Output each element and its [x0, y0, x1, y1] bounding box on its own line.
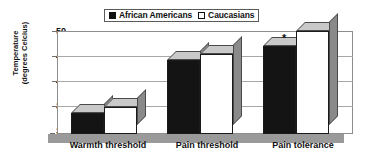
- bar-caucasians-warmth-threshold: [104, 107, 137, 134]
- x-axis-label-pain-threshold: Pain threshold: [157, 140, 257, 150]
- bar-caucasians-pain-threshold: [200, 54, 233, 134]
- bar-side-face: [329, 13, 338, 125]
- y-axis-title-line1: Temperature: [11, 9, 20, 97]
- legend-swatch-filled-square-icon: [109, 12, 116, 19]
- legend-entry-caucasians: Caucasians: [198, 11, 254, 20]
- bar-african-americans-pain-tolerance: [263, 46, 296, 134]
- bar-front-face: [200, 54, 233, 134]
- bar-front-face: [104, 107, 137, 134]
- bar-front-face: [167, 60, 200, 134]
- x-axis-label-warmth-threshold: Warmth threshold: [53, 140, 163, 150]
- plot-area: *: [57, 31, 353, 134]
- bar-african-americans-warmth-threshold: [71, 113, 104, 134]
- bar-caucasians-pain-tolerance: [296, 31, 329, 134]
- legend-label-caucasians: Caucasians: [208, 11, 254, 20]
- legend-swatch-open-square-icon: [198, 12, 205, 19]
- legend-entry-african-americans: African Americans: [109, 11, 192, 20]
- legend-label-african-americans: African Americans: [119, 11, 192, 20]
- chart-legend: African Americans Caucasians: [104, 9, 259, 22]
- bar-side-face: [233, 36, 242, 125]
- bar-front-face: [263, 46, 296, 134]
- bar-front-face: [71, 113, 104, 134]
- significance-asterisk-pain-tolerance: *: [282, 34, 286, 42]
- bar-front-face: [296, 31, 329, 134]
- bar-chart: African Americans Caucasians Temperature…: [0, 0, 370, 160]
- x-axis-label-pain-tolerance: Pain tolerance: [253, 140, 353, 150]
- bar-african-americans-pain-threshold: [167, 60, 200, 134]
